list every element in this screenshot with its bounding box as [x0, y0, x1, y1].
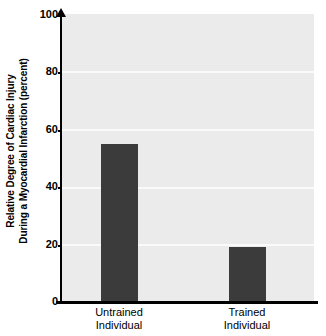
y-axis-line: [60, 15, 62, 302]
bar-untrained-individual: [101, 144, 138, 302]
y-axis-arrow-icon: [56, 8, 66, 17]
gridline-20: [62, 244, 314, 246]
x-axis-line: [56, 301, 318, 304]
y-tick-label-40: 40: [28, 181, 58, 192]
bar-chart-figure: Relative Degree of Cardiac Injury During…: [0, 0, 326, 336]
gridline-40: [62, 187, 314, 189]
y-axis-title: Relative Degree of Cardiac Injury During…: [5, 58, 30, 243]
x-tick-label-untrained-line-2: Individual: [59, 319, 179, 332]
x-tick-label-untrained-line-1: Untrained: [59, 306, 179, 319]
bar-trained-individual: [229, 247, 266, 302]
gridline-80: [62, 71, 314, 73]
y-tick-label-20: 20: [28, 239, 58, 250]
y-tick-label-80: 80: [28, 66, 58, 77]
gridline-60: [62, 129, 314, 131]
x-tick-label-untrained-individual: Untrained Individual: [59, 306, 179, 332]
x-tick-label-trained-individual: Trained Individual: [187, 306, 307, 332]
y-axis-tick-labels: 100 80 60 40 20 0: [28, 0, 58, 336]
y-tick-label-100: 100: [28, 9, 58, 20]
y-tick-label-60: 60: [28, 124, 58, 135]
x-tick-label-trained-line-1: Trained: [187, 306, 307, 319]
plot-area: [62, 14, 314, 302]
x-tick-label-trained-line-2: Individual: [187, 319, 307, 332]
y-axis-title-line-1: Relative Degree of Cardiac Injury: [5, 58, 18, 243]
y-tick-label-0: 0: [28, 296, 58, 307]
